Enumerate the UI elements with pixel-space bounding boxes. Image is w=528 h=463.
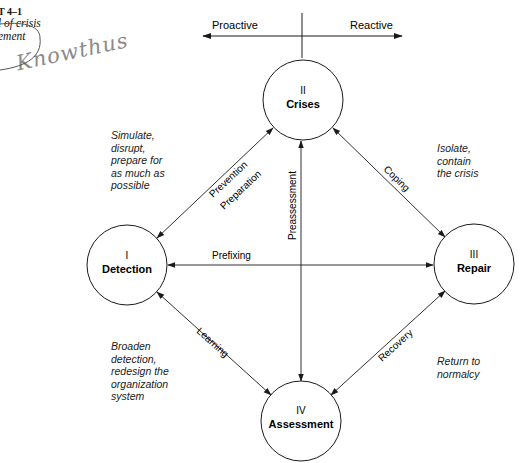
repair-numeral: III [470,249,478,260]
node-repair: III Repair [434,224,514,304]
reactive-label: Reactive [350,19,393,31]
crisis-management-diagram: Proactive Reactive Prevention Preparatio… [0,0,528,463]
node-detection: I Detection [87,225,167,305]
detection-numeral: I [126,250,129,261]
edge-recovery [331,291,445,395]
note-learning-strategy: Broaden detection, redesign the organiza… [111,340,169,403]
recovery-label: Recovery [376,327,415,363]
assessment-name: Assessment [269,418,334,430]
pencil-ellipse [0,23,40,70]
note-coping-strategy: Isolate, contain the crisis [437,142,478,180]
note-prevention-strategy: Simulate, disrupt, prepare for as much a… [111,129,165,192]
prefixing-label: Prefixing [212,250,251,261]
crises-numeral: II [300,85,306,96]
learning-label: Learning [195,325,231,359]
preassessment-label: Preassessment [287,171,298,240]
coping-label: Coping [382,164,412,194]
crises-name: Crises [286,98,320,110]
edge-coping [333,128,445,237]
assessment-numeral: IV [296,405,306,416]
repair-name: Repair [457,262,492,274]
detection-name: Detection [102,263,152,275]
proactive-label: Proactive [212,19,258,31]
node-crises: II Crises [263,60,343,140]
note-recovery-strategy: Return to normalcy [437,355,480,380]
node-assessment: IV Assessment [261,381,341,461]
